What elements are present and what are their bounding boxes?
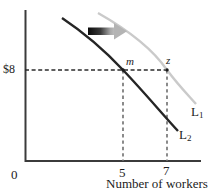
shift-arrow-icon (88, 23, 127, 39)
curve-l1-label-base: L (191, 104, 199, 119)
y-axis-tick-label-8: $8 (3, 63, 15, 75)
chart-canvas (0, 0, 223, 192)
curve-l1-label-subscript: 1 (199, 110, 204, 120)
curve-l1-label: L1 (191, 105, 203, 118)
point-z-marker (165, 68, 168, 71)
curve-l2-label-subscript: 2 (187, 133, 192, 143)
curve-l2-label: L2 (179, 128, 191, 141)
point-m-marker (121, 68, 124, 71)
point-m-label: m (126, 56, 134, 67)
origin-label: 0 (11, 168, 18, 181)
labor-demand-shift-chart: $8 0 5 7 Number of workers m z L1 L2 (0, 0, 223, 192)
x-axis-title: Number of workers (106, 177, 208, 190)
point-z-label: z (166, 55, 170, 66)
curve-l2-label-base: L (179, 127, 187, 142)
